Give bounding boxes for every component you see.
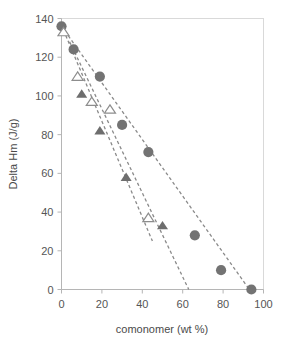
data-point-triangle-open bbox=[86, 97, 97, 105]
data-point-circle bbox=[143, 147, 153, 157]
trendlines-group bbox=[62, 26, 250, 289]
x-tick-label: 60 bbox=[177, 298, 189, 310]
y-tick-label: 60 bbox=[41, 167, 53, 179]
plot-frame bbox=[62, 19, 264, 290]
y-axis-title: Delta Hm (J/g) bbox=[7, 119, 19, 190]
x-axis-title: comonomer (wt %) bbox=[116, 323, 208, 335]
data-point-circle bbox=[190, 230, 200, 240]
data-point-triangle-filled bbox=[76, 89, 87, 97]
y-tick-label: 120 bbox=[35, 51, 53, 63]
data-point-triangle-filled bbox=[121, 173, 132, 181]
data-point-circle bbox=[216, 265, 226, 275]
data-point-circle bbox=[69, 44, 79, 54]
data-point-circle bbox=[117, 120, 127, 130]
data-point-triangle-filled bbox=[94, 126, 105, 134]
x-tick-label: 100 bbox=[254, 298, 272, 310]
trend-circles bbox=[62, 26, 250, 289]
y-tick-label: 0 bbox=[47, 284, 53, 296]
y-tick-label: 140 bbox=[35, 13, 53, 25]
x-axis-ticks: 020406080100 bbox=[58, 290, 272, 310]
x-tick-label: 0 bbox=[58, 298, 64, 310]
y-tick-label: 80 bbox=[41, 129, 53, 141]
data-point-circle bbox=[95, 71, 105, 81]
y-tick-label: 100 bbox=[35, 90, 53, 102]
data-point-triangle-filled bbox=[157, 221, 168, 229]
x-tick-label: 40 bbox=[136, 298, 148, 310]
y-tick-label: 20 bbox=[41, 245, 53, 257]
y-axis-ticks: 020406080100120140 bbox=[35, 13, 61, 296]
data-point-triangle-open bbox=[104, 105, 115, 113]
x-tick-label: 20 bbox=[96, 298, 108, 310]
x-tick-label: 80 bbox=[217, 298, 229, 310]
scatter-plot-svg: 020406080100120140 020406080100 comonome… bbox=[0, 0, 283, 356]
series-open-triangles bbox=[58, 27, 154, 221]
chart-figure: 020406080100120140 020406080100 comonome… bbox=[0, 0, 283, 356]
y-tick-label: 40 bbox=[41, 206, 53, 218]
series-filled-triangles bbox=[76, 89, 168, 229]
trend-filled-triangles bbox=[70, 42, 189, 290]
data-point-circle bbox=[246, 284, 256, 294]
